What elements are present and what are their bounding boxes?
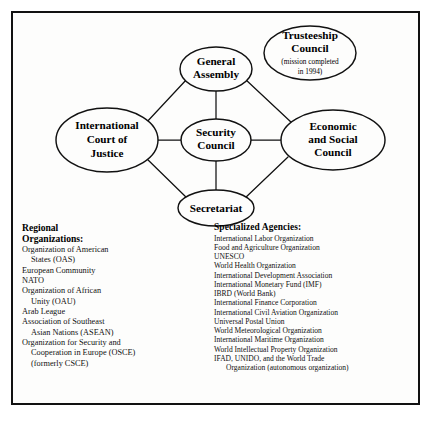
node-general-assembly[interactable]: General Assembly: [180, 47, 252, 91]
node-secretariat[interactable]: Secretariat: [178, 190, 254, 226]
list-item: UNESCO: [214, 252, 414, 261]
list-item: Universal Postal Union: [214, 317, 414, 326]
specialized-agencies-heading: Specialized Agencies:: [214, 222, 414, 233]
list-item-main: Organization for Security and: [22, 338, 121, 347]
list-item-main: IBRD (World Bank): [214, 289, 275, 298]
node-security-council-line-0: Security: [196, 126, 236, 138]
node-international-court-of-justice-line-2: Justice: [91, 147, 124, 159]
list-item-main: International Civil Aviation Organizatio…: [214, 308, 338, 317]
list-item: International Maritime Organization: [214, 335, 414, 344]
list-item: International Monetary Fund (IMF): [214, 280, 414, 289]
list-item: NATO: [22, 276, 207, 286]
node-trusteeship-council-line-1: Council: [291, 42, 328, 54]
list-item-main: NATO: [22, 276, 44, 285]
list-item: International Civil Aviation Organizatio…: [214, 308, 414, 317]
list-item-main: IFAD, UNIDO, and the World Trade: [214, 354, 324, 363]
list-item: World Intellectual Property Organization: [214, 345, 414, 354]
node-economic-and-social-council-line-1: and Social: [308, 133, 357, 145]
list-item: International Development Association: [214, 271, 414, 280]
list-item-main: Association of Southeast: [22, 317, 105, 326]
list-item: Association of SoutheastAsian Nations (A…: [22, 317, 207, 338]
node-international-court-of-justice[interactable]: International Court of Justice: [56, 108, 158, 172]
list-item-main: World Health Organization: [214, 261, 296, 270]
list-item-main: International Maritime Organization: [214, 335, 324, 344]
list-item-cont: Asian Nations (ASEAN): [22, 328, 207, 338]
list-item: Organization of AmericanStates (OAS): [22, 245, 207, 266]
node-economic-and-social-council-line-0: Economic: [309, 120, 356, 132]
list-item-cont: States (OAS): [22, 255, 207, 265]
edge-general-assembly-international-court-of-justice: [145, 79, 187, 124]
list-item: World Meteorological Organization: [214, 326, 414, 335]
list-item: Arab League: [22, 307, 207, 317]
list-item-main: International Monetary Fund (IMF): [214, 280, 322, 289]
list-item: International Finance Corporation: [214, 298, 414, 307]
list-item-main: International Labor Organization: [214, 234, 314, 243]
node-security-council-line-1: Council: [197, 139, 234, 151]
list-item: World Health Organization: [214, 261, 414, 270]
list-item-cont: Unity (OAU): [22, 297, 207, 307]
list-item-main: World Meteorological Organization: [214, 326, 322, 335]
node-trusteeship-council-line-0: Trusteeship: [282, 29, 338, 41]
specialized-agencies-list: International Labor Organization Food an…: [214, 234, 414, 373]
node-trusteeship-council[interactable]: Trusteeship Council (mission completed i…: [264, 26, 356, 80]
node-trusteeship-council-sub-0: (mission completed: [281, 57, 339, 66]
edge-general-assembly-economic-and-social-council: [245, 79, 292, 123]
list-item: IFAD, UNIDO, and the World TradeOrganiza…: [214, 354, 414, 373]
list-item: Organization of AfricanUnity (OAU): [22, 286, 207, 307]
node-economic-and-social-council[interactable]: Economic and Social Council: [281, 110, 385, 170]
list-item-cont: Organization (autonomous organization): [214, 363, 414, 372]
list-item: Organization for Security andCooperation…: [22, 338, 207, 369]
specialized-agencies-column: Specialized Agencies: International Labo…: [214, 222, 414, 372]
figure-root: General Assembly Trusteeship Council (mi…: [0, 0, 435, 422]
list-item-main: Organization of African: [22, 286, 101, 295]
regional-organizations-heading: Regional Organizations:: [22, 222, 207, 244]
list-item-main: Universal Postal Union: [214, 317, 284, 326]
list-item-main: European Community: [22, 266, 96, 275]
list-item-main: World Intellectual Property Organization: [214, 345, 338, 354]
reference-lists: Regional Organizations: Organization of …: [11, 222, 420, 405]
list-item-main: Food and Agriculture Organization: [214, 243, 320, 252]
edge-secretariat-economic-and-social-council: [244, 157, 288, 199]
list-item-main: Organization of American: [22, 245, 108, 254]
list-item: International Labor Organization: [214, 234, 414, 243]
list-item: European Community: [22, 266, 207, 276]
edge-international-court-of-justice-secretariat: [145, 157, 188, 199]
list-item-main: UNESCO: [214, 252, 244, 261]
node-general-assembly-line-1: Assembly: [193, 68, 239, 80]
regional-organizations-list: Organization of AmericanStates (OAS) Eur…: [22, 245, 207, 369]
regional-organizations-column: Regional Organizations: Organization of …: [22, 222, 207, 369]
list-item: IBRD (World Bank): [214, 289, 414, 298]
node-security-council[interactable]: Security Council: [181, 119, 251, 161]
node-general-assembly-line-0: General: [197, 55, 236, 67]
node-international-court-of-justice-line-0: International: [75, 119, 138, 131]
node-economic-and-social-council-line-2: Council: [314, 146, 351, 158]
node-international-court-of-justice-line-1: Court of: [87, 133, 128, 145]
node-trusteeship-council-sub-1: in 1994): [298, 67, 323, 76]
list-item: Food and Agriculture Organization: [214, 243, 414, 252]
list-item-main: Arab League: [22, 307, 65, 316]
list-item-cont: Cooperation in Europe (OSCE) (formerly C…: [22, 348, 207, 369]
list-item-main: International Finance Corporation: [214, 298, 317, 307]
node-secretariat-line-0: Secretariat: [190, 202, 243, 214]
list-item-main: International Development Association: [214, 271, 332, 280]
